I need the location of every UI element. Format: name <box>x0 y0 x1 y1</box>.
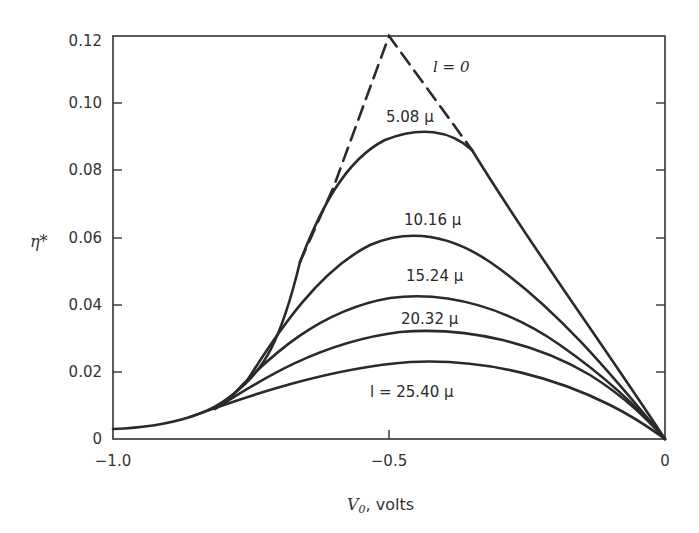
curve-l0-falling <box>472 150 665 439</box>
y-tick-label: 0 <box>92 430 102 448</box>
x-tick-label: −1.0 <box>95 452 131 470</box>
curve-5.08 <box>300 132 472 262</box>
x-axis-subscript: 0 <box>359 503 366 516</box>
x-tick-labels: −1.0 −0.5 0 <box>95 452 670 470</box>
x-axis-title: V0, volts <box>347 495 414 516</box>
x-tick-label: 0 <box>660 452 670 470</box>
x-tick-label: −0.5 <box>371 452 407 470</box>
y-tick-label: 0.04 <box>69 296 102 314</box>
label-20.32: 20.32 μ <box>401 310 459 328</box>
label-25.40: l = 25.40 μ <box>370 383 454 401</box>
y-tick-label: 0.02 <box>69 363 102 381</box>
y-tick-label: 0.10 <box>69 94 102 112</box>
y-tick-labels: 0 0.02 0.04 0.06 0.08 0.10 0.12 <box>69 32 102 448</box>
label-l0: l = 0 <box>433 58 470 76</box>
curve-labels: l = 0 5.08 μ 10.16 μ 15.24 μ 20.32 μ l =… <box>370 58 470 401</box>
label-5.08: 5.08 μ <box>386 108 434 126</box>
y-axis-title: η* <box>30 232 48 251</box>
label-15.24: 15.24 μ <box>406 267 464 285</box>
x-axis-unit: , volts <box>366 495 414 514</box>
y-tick-label: 0.12 <box>69 32 102 50</box>
curve-l0-solid <box>113 262 300 429</box>
label-10.16: 10.16 μ <box>404 211 462 229</box>
chart: 0 0.02 0.04 0.06 0.08 0.10 0.12 −1.0 −0.… <box>0 0 699 533</box>
y-tick-label: 0.06 <box>69 229 102 247</box>
y-tick-label: 0.08 <box>69 161 102 179</box>
